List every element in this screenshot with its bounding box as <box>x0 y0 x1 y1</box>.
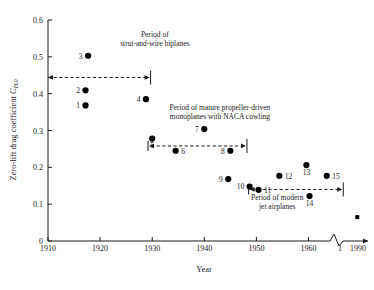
chart-canvas: 00.10.20.30.40.50.6191019201930194019501… <box>0 0 374 290</box>
y-axis-tick-label: 0.2 <box>33 163 43 172</box>
period-span-modern-jet-airplanes: Period of modernjet airplanes <box>249 182 344 210</box>
data-point <box>355 215 359 219</box>
data-point-marker <box>227 148 233 154</box>
data-point-label: 1 <box>76 101 80 110</box>
data-point: 13 <box>303 162 311 177</box>
data-point: 14 <box>306 193 314 208</box>
period-span-end-arrow-icon <box>241 144 246 149</box>
x-axis-tick-label: 1990 <box>350 244 366 253</box>
data-point: 10 <box>237 182 253 191</box>
x-axis-tick-label: 1930 <box>144 244 160 253</box>
data-point-marker <box>255 187 261 193</box>
data-point-marker <box>247 183 253 189</box>
data-point-label: 11 <box>264 186 271 195</box>
x-axis-title: Year <box>196 264 212 274</box>
data-point: 3 <box>79 52 91 61</box>
x-axis-arrow-icon <box>363 238 368 243</box>
period-span-label: Period of mature propeller-driven <box>170 103 271 112</box>
x-axis-tick-label: 1940 <box>196 244 212 253</box>
data-point-marker <box>201 126 207 132</box>
y-axis-tick-label: 0.5 <box>33 53 43 62</box>
data-point-label: 12 <box>285 172 293 181</box>
period-span-label: strut-and-wire biplanes <box>120 39 189 48</box>
y-axis-tick-label: 0.6 <box>33 16 43 25</box>
data-point-marker <box>82 102 88 108</box>
data-point-label: 13 <box>303 168 311 177</box>
data-point: 12 <box>276 172 292 181</box>
data-point-marker <box>143 96 149 102</box>
data-point: 7 <box>195 125 207 134</box>
x-axis-break-tick-label: 1 <box>338 244 342 253</box>
period-span-label: monoplanes with NACA cowling <box>170 112 270 121</box>
data-point-label: 9 <box>219 175 223 184</box>
data-point: 2 <box>76 86 88 95</box>
y-axis-tick-label: 0.4 <box>33 90 43 99</box>
period-span-start-arrow-icon <box>48 75 53 80</box>
x-axis-tick-label: 1910 <box>40 244 56 253</box>
data-point: 15 <box>324 172 340 181</box>
data-point-marker <box>225 176 231 182</box>
data-point: 5 <box>149 136 155 151</box>
period-span-end-arrow-icon <box>145 75 150 80</box>
data-point-marker <box>276 173 282 179</box>
x-axis-tick-label: 1920 <box>92 244 108 253</box>
axes-layer: 00.10.20.30.40.50.6191019201930194019501… <box>33 16 368 253</box>
period-spans-layer: Period ofstrut-and-wire biplanesPeriod o… <box>48 30 343 211</box>
data-point-label: 6 <box>181 147 185 156</box>
data-points-layer: 123456789101112131415 <box>76 52 359 220</box>
data-point-marker <box>173 148 179 154</box>
x-axis-tick-label: 1950 <box>248 244 264 253</box>
data-point-label: 10 <box>237 182 245 191</box>
data-point-label: 3 <box>79 52 83 61</box>
data-point-marker <box>82 87 88 93</box>
data-point-label: 5 <box>150 141 154 150</box>
period-span-end-arrow-icon <box>337 187 342 192</box>
period-span-label: Period of modern <box>251 193 304 202</box>
data-point-marker <box>85 53 91 59</box>
data-point: 4 <box>137 95 149 104</box>
y-axis-tick-label: 0.1 <box>33 200 43 209</box>
period-span-mature-propeller-driven-monoplanes: Period of mature propeller-drivenmonopla… <box>148 103 271 153</box>
data-point-label: 15 <box>332 172 340 181</box>
period-span-label: jet airplanes <box>258 202 296 211</box>
data-point-label: 14 <box>306 199 314 208</box>
data-point-label: 4 <box>137 95 141 104</box>
data-point-label: 2 <box>76 86 80 95</box>
data-point: 1 <box>76 101 88 110</box>
data-point: 9 <box>219 175 231 184</box>
zero-lift-drag-coefficient-chart: 00.10.20.30.40.50.6191019201930194019501… <box>0 0 374 290</box>
y-axis-title: Zero-lift drag coefficient CD,0 <box>8 80 19 181</box>
x-axis-tick-label: 1960 <box>301 244 317 253</box>
data-point-label: 7 <box>195 125 199 134</box>
data-point: 6 <box>173 147 186 156</box>
data-point-marker <box>324 173 330 179</box>
data-point-label: 8 <box>221 147 225 156</box>
period-span-label: Period of <box>141 30 169 39</box>
period-span-strut-and-wire-biplanes: Period ofstrut-and-wire biplanes <box>48 30 190 85</box>
data-point-marker <box>355 215 359 219</box>
y-axis-tick-label: 0.3 <box>33 127 43 136</box>
data-point: 8 <box>221 147 233 156</box>
